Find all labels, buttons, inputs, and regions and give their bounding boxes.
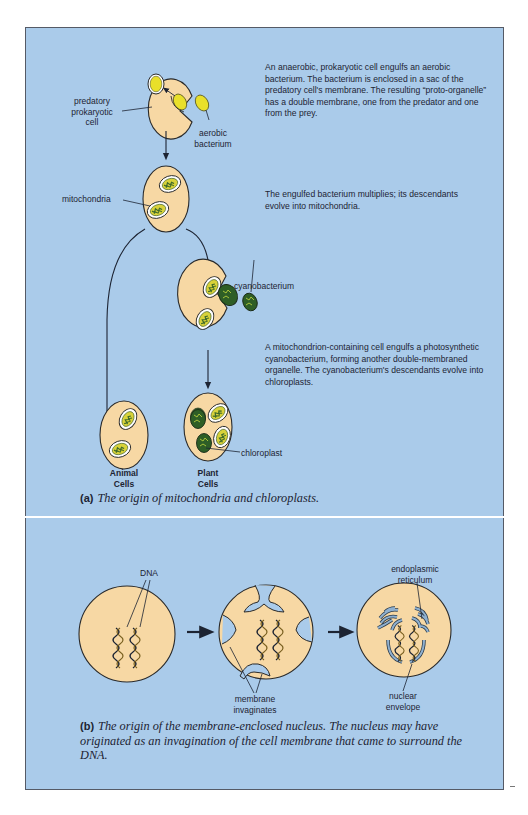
plant-cell: [184, 393, 233, 461]
endoplasmic-reticulum-label: endoplasmic reticulum: [385, 564, 445, 585]
dna-label: DNA: [140, 568, 158, 579]
caption-a: (a)The origin of mitochondria and chloro…: [80, 491, 480, 506]
step3-description: A mitochondrion-containing cell engulfs …: [265, 342, 485, 388]
caption-b-tag: (b): [80, 720, 94, 732]
nuclear-envelope-label: nuclear envelope: [378, 691, 428, 712]
step1-description: An anaerobic, prokaryotic cell engulfs a…: [265, 62, 490, 120]
mitochondria-cell: [143, 166, 189, 232]
animal-cell: [100, 401, 148, 469]
caption-b-text: The origin of the membrane-enclosed nucl…: [80, 719, 462, 762]
caption-b: (b)The origin of the membrane-enclosed n…: [80, 719, 485, 763]
cell-with-dna: [79, 586, 175, 682]
caption-a-text: The origin of mitochondria and chloropla…: [97, 491, 319, 505]
membrane-invaginates-label: membrane invaginates: [225, 694, 285, 715]
mitochondria-label: mitochondria: [62, 194, 111, 205]
step2-description: The engulfed bacterium multiplies; its d…: [265, 189, 485, 212]
cyanobacterium-label: cyanobacterium: [234, 281, 294, 292]
caption-a-tag: (a): [80, 492, 93, 504]
nucleated-cell: [357, 583, 451, 677]
cyanobacterium: [240, 291, 259, 313]
predatory-cell: [148, 74, 192, 139]
aerobic-bacterium: [193, 93, 212, 114]
aerobic-bacterium-label: aerobic bacterium: [189, 128, 237, 149]
predatory-cell-label: predatory prokaryotic cell: [62, 96, 122, 128]
chloroplast-label: chloroplast: [241, 448, 282, 459]
plant-cells-label: Plant Cells: [184, 468, 232, 489]
engulfing-cell: [178, 259, 242, 332]
animal-cells-label: Animal Cells: [100, 468, 148, 489]
invaginating-cell: [219, 585, 313, 679]
